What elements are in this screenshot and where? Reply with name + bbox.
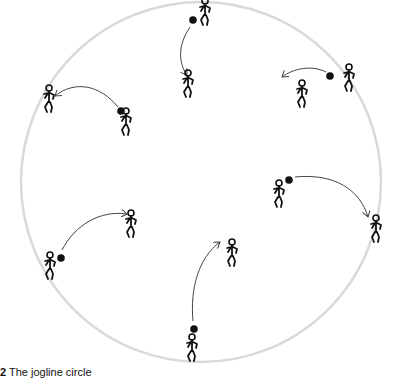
pass-arrow (181, 27, 190, 75)
thrower-figure-icon (274, 180, 284, 207)
receiver-figure-icon (227, 239, 237, 266)
receiver-figure-icon (44, 85, 54, 112)
ball-icon (285, 176, 293, 184)
ball-icon (326, 72, 334, 80)
pass-top (181, 0, 210, 97)
pass-left (45, 210, 136, 279)
ball-icon (57, 254, 65, 262)
caption-number: 2 (0, 366, 6, 378)
ball-icon (190, 325, 198, 333)
pass-arrow (295, 176, 368, 217)
receiver-figure-icon (126, 210, 136, 237)
thrower-figure-icon (344, 64, 354, 91)
pass-bottom (187, 239, 237, 361)
receiver-figure-icon (183, 70, 193, 97)
jogline-circle (21, 2, 381, 362)
jogline-circle-diagram (0, 0, 402, 380)
pass-right (274, 176, 381, 242)
thrower-figure-icon (187, 334, 197, 361)
thrower-figure-icon (45, 252, 55, 279)
pass-arrow (62, 213, 127, 250)
pass-arrow (192, 242, 220, 321)
ball-icon (189, 16, 197, 24)
pass-arrow (55, 87, 118, 107)
ball-icon (117, 107, 125, 115)
caption-text: The jogline circle (9, 366, 92, 378)
thrower-figure-icon (200, 0, 210, 25)
figure-caption: 2 The jogline circle (0, 366, 92, 378)
receiver-figure-icon (297, 80, 307, 107)
pass-upper-left (44, 85, 131, 135)
pass-arrow (282, 68, 326, 77)
